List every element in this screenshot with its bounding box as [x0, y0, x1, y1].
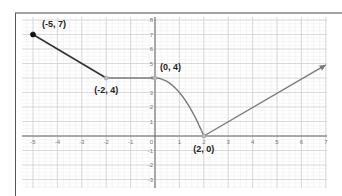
x-tick-label: 5	[275, 139, 279, 145]
y-tick-label: -3	[148, 177, 154, 183]
x-tick-label: -2	[104, 139, 110, 145]
x-tick-label: 3	[227, 139, 231, 145]
y-tick-label: 0	[150, 139, 154, 145]
point-label: (-5, 7)	[42, 19, 66, 29]
grid-major	[22, 17, 327, 188]
x-tick-label: 7	[324, 139, 328, 145]
point-annotations: (-5, 7)(-2, 4)(0, 4)(2, 0)	[42, 19, 214, 155]
x-tick-label: 4	[251, 139, 255, 145]
x-tick-label: 6	[300, 139, 304, 145]
grid-minor	[22, 17, 327, 188]
point-label: (-2, 4)	[94, 85, 118, 95]
plot-series	[30, 32, 325, 138]
x-tick-label: -3	[79, 139, 85, 145]
data-point	[104, 76, 108, 80]
y-tick-label: -2	[148, 162, 154, 168]
data-point	[30, 32, 35, 37]
y-tick-label: -1	[148, 148, 154, 154]
data-point	[153, 76, 157, 80]
point-label: (2, 0)	[193, 144, 214, 154]
point-label: (0, 4)	[160, 62, 181, 72]
axes	[22, 17, 327, 188]
x-tick-label: -1	[128, 139, 134, 145]
x-tick-label: -5	[30, 139, 36, 145]
x-tick-label: -4	[55, 139, 61, 145]
data-point	[202, 134, 206, 138]
x-tick-label: 1	[178, 139, 182, 145]
function-graph: -5-4-3-2-11234567876543210-1-2-3 (-5, 7)…	[0, 0, 342, 196]
